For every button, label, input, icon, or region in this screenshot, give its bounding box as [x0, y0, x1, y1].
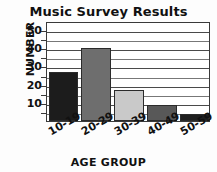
- y-tick-mark: [41, 67, 46, 68]
- y-tick-mark: [41, 95, 46, 96]
- x-axis-title: AGE GROUP: [0, 156, 217, 169]
- y-tick-label: 30: [20, 62, 42, 72]
- y-tick-mark: [41, 31, 46, 32]
- y-tick-mark: [41, 86, 46, 87]
- y-tick-mark: [41, 40, 46, 41]
- y-tick-mark: [41, 58, 46, 59]
- y-tick-mark: [41, 77, 46, 78]
- y-tick-label: 40: [20, 44, 42, 54]
- bar-chart: Music Survey Results NUMBER 1020304050 1…: [0, 0, 217, 172]
- y-tick-label: 50: [20, 26, 42, 36]
- bars-group: [47, 23, 209, 121]
- y-tick-mark: [41, 49, 46, 50]
- y-tick-label: 20: [20, 81, 42, 91]
- y-tick-mark: [41, 104, 46, 105]
- y-tick-label: 10: [20, 99, 42, 109]
- y-tick-mark: [41, 113, 46, 114]
- y-axis-tick-labels: 1020304050: [16, 0, 42, 172]
- plot-area: [46, 22, 210, 122]
